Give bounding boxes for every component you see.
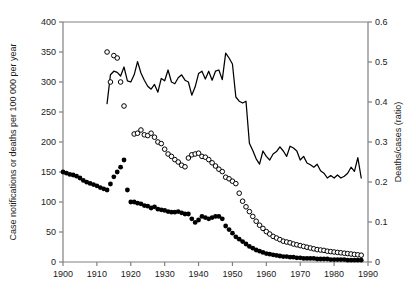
filled-circle-marker <box>115 170 120 175</box>
open-circle-marker <box>244 205 249 210</box>
open-circle-marker <box>234 181 239 186</box>
y2-tick-label: 0.2 <box>375 177 388 187</box>
open-circle-marker <box>183 165 188 170</box>
open-circle-marker <box>115 56 120 61</box>
y2-tick-label: 0 <box>375 257 380 267</box>
open-circle-marker <box>162 147 167 152</box>
y-tick-label: 100 <box>41 197 56 207</box>
open-circle-marker <box>139 128 144 133</box>
y2-tick-label: 0.3 <box>375 137 388 147</box>
open-circle-marker <box>152 135 157 140</box>
y2-tick-label: 0.4 <box>375 97 388 107</box>
filled-circle-marker <box>359 258 364 263</box>
filled-circle-marker <box>196 218 201 223</box>
x-tick-label: 1990 <box>358 269 378 279</box>
filled-circle-marker <box>186 212 191 217</box>
y2-tick-label: 0.6 <box>375 17 388 27</box>
filled-circle-marker <box>189 216 194 221</box>
y-tick-label: 200 <box>41 137 56 147</box>
x-tick-label: 1980 <box>324 269 344 279</box>
filled-circle-marker <box>105 188 110 193</box>
x-tick-label: 1960 <box>256 269 276 279</box>
filled-circle-marker <box>227 227 232 232</box>
open-circle-marker <box>247 209 252 214</box>
y-tick-label: 0 <box>51 257 56 267</box>
x-tick-label: 1940 <box>189 269 209 279</box>
x-tick-label: 1920 <box>121 269 141 279</box>
open-circle-marker <box>237 191 242 196</box>
y-tick-label: 350 <box>41 47 56 57</box>
y-tick-label: 150 <box>41 167 56 177</box>
filled-circle-marker <box>122 158 127 163</box>
y2-tick-label: 0.1 <box>375 217 388 227</box>
open-circle-marker <box>159 141 164 146</box>
open-circle-marker <box>254 219 259 224</box>
chart-canvas: 1900191019201930194019501960197019801990… <box>0 0 416 298</box>
y-tick-label: 400 <box>41 17 56 27</box>
open-circle-marker <box>149 131 154 136</box>
y-tick-label: 300 <box>41 77 56 87</box>
y-axis-title: Case notifications or deaths per 100 000… <box>8 43 18 240</box>
open-circle-marker <box>359 253 364 258</box>
filled-circle-marker <box>220 216 225 221</box>
open-circle-marker <box>220 169 225 174</box>
x-tick-label: 1970 <box>290 269 310 279</box>
chart-figure: 1900191019201930194019501960197019801990… <box>0 0 416 298</box>
x-tick-label: 1900 <box>53 269 73 279</box>
filled-circle-marker <box>108 182 113 187</box>
filled-circle-marker <box>111 174 116 179</box>
open-circle-marker <box>240 199 245 204</box>
open-circle-marker <box>122 104 127 109</box>
x-tick-label: 1930 <box>155 269 175 279</box>
open-circle-marker <box>118 80 123 85</box>
filled-circle-marker <box>230 231 235 236</box>
y2-tick-label: 0.5 <box>375 57 388 67</box>
y-tick-label: 250 <box>41 107 56 117</box>
filled-circle-marker <box>118 165 123 170</box>
open-circle-marker <box>250 214 255 219</box>
x-tick-label: 1910 <box>87 269 107 279</box>
y-tick-label: 50 <box>46 227 56 237</box>
open-circle-marker <box>105 50 110 55</box>
x-tick-label: 1950 <box>222 269 242 279</box>
y2-axis-title: Deaths/cases (ratio) <box>393 102 403 183</box>
open-circle-marker <box>108 80 113 85</box>
filled-circle-marker <box>125 188 130 193</box>
filled-circle-marker <box>223 224 228 229</box>
